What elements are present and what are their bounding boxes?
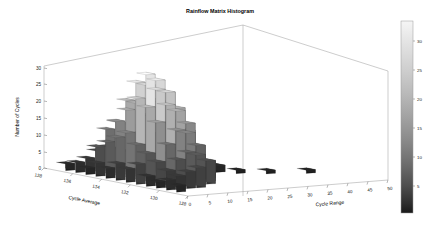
rainflow-3d-bar-chart: 30 25 20 15 10 5 0 Number of Cycles 138 …	[0, 0, 441, 236]
colorbar-tick-label: 30	[417, 39, 422, 44]
z-tick-label: 30	[36, 66, 42, 71]
colorbar-tick-label: 10	[417, 155, 422, 160]
z-tick-label: 25	[36, 82, 42, 87]
chart-title: Rainflow Matrix Histogram	[186, 8, 254, 14]
colorbar-tick-label: 15	[417, 126, 422, 131]
x-tick-label: 30	[307, 192, 313, 197]
x-tick-label: 35	[327, 191, 333, 196]
x-tick-label: 10	[227, 199, 233, 204]
z-tick-label: 20	[36, 99, 42, 104]
x-tick-label: 15	[247, 197, 253, 202]
z-tick-label: 10	[36, 133, 42, 138]
z-tick-label: 5	[38, 150, 41, 155]
colorbar-tick-label: 20	[417, 97, 422, 102]
z-tick-label: 0	[38, 166, 41, 171]
z-axis-title: Number of Cycles	[14, 97, 20, 137]
figure-canvas: 30 25 20 15 10 5 0 Number of Cycles 138 …	[0, 0, 441, 236]
x-tick-label: 20	[267, 195, 273, 200]
x-tick-label: 40	[347, 189, 353, 194]
figure-background	[0, 0, 441, 236]
x-tick-label: 25	[287, 194, 293, 199]
x-tick-label: 45	[367, 187, 373, 192]
x-tick-label: 50	[387, 186, 393, 191]
colorbar-tick-label: 25	[417, 68, 422, 73]
colorbar-gradient	[401, 21, 413, 213]
z-tick-label: 15	[36, 116, 42, 121]
